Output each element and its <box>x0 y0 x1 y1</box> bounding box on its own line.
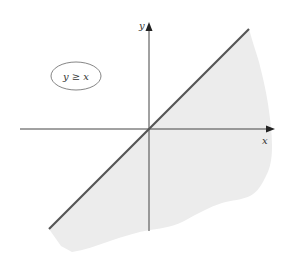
inequality-label: y ≥ x <box>62 71 89 82</box>
y-axis-arrow-icon <box>146 22 153 31</box>
x-axis-label: x <box>262 135 268 146</box>
y-axis-label: y <box>138 20 145 31</box>
inequality-graph: y x y ≥ x <box>0 0 293 262</box>
